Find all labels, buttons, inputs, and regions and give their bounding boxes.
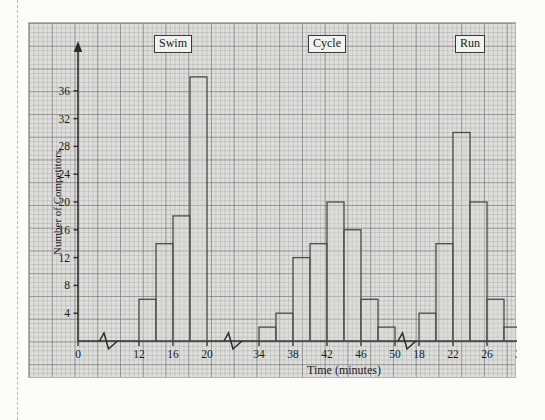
bar-swim-16-18 — [173, 216, 190, 341]
bar-cycle-38-40 — [293, 258, 310, 341]
y-tick-label-36: 36 — [59, 85, 71, 97]
x-tick-label-cycle-42: 42 — [321, 348, 333, 360]
x-tick-label-swim-12: 12 — [133, 348, 145, 360]
x-tick-label-cycle-50: 50 — [389, 348, 401, 360]
y-axis-title: Number of Competitors — [51, 149, 63, 254]
graph-paper: 4812162024283236012162034384246501822263… — [28, 22, 516, 378]
section-label-swim: Swim — [154, 35, 192, 53]
bar-swim-14-16 — [156, 244, 173, 341]
bar-cycle-34-36 — [259, 327, 276, 341]
bar-swim-12-14 — [139, 299, 156, 341]
bar-cycle-36-38 — [276, 313, 293, 341]
section-label-run: Run — [455, 35, 485, 53]
bar-run-24-26 — [470, 202, 487, 341]
bar-swim-18-20 — [190, 77, 207, 341]
bar-cycle-48-50 — [378, 327, 395, 341]
bar-run-28-30 — [504, 327, 517, 341]
bar-run-20-22 — [436, 244, 453, 341]
x-tick-label-swim-0: 0 — [75, 348, 81, 360]
bar-cycle-40-42 — [310, 244, 327, 341]
bar-run-22-24 — [453, 133, 470, 342]
x-tick-label-run-26: 26 — [481, 348, 493, 360]
x-tick-label-swim-16: 16 — [167, 348, 179, 360]
y-axis-arrow-icon — [74, 41, 82, 52]
y-tick-label-8: 8 — [64, 279, 70, 291]
x-tick-label-run-18: 18 — [413, 348, 425, 360]
section-label-cycle: Cycle — [308, 35, 346, 53]
x-tick-label-run-30: 30 — [515, 348, 517, 360]
x-tick-label-cycle-46: 46 — [355, 348, 367, 360]
bar-cycle-46-48 — [361, 299, 378, 341]
bar-run-26-28 — [487, 299, 504, 341]
bar-cycle-44-46 — [344, 230, 361, 341]
x-axis-title: Time (minutes) — [307, 363, 381, 378]
x-tick-label-cycle-38: 38 — [287, 348, 299, 360]
x-tick-label-cycle-34: 34 — [253, 348, 265, 360]
chart-svg: 4812162024283236012162034384246501822263… — [29, 23, 517, 379]
x-tick-label-run-22: 22 — [447, 348, 459, 360]
y-tick-label-32: 32 — [59, 113, 71, 125]
bar-cycle-42-44 — [327, 202, 344, 341]
histogram-plot: 4812162024283236012162034384246501822263… — [29, 23, 515, 377]
bar-run-18-20 — [419, 313, 436, 341]
page-edge-dashed-rule — [17, 0, 18, 420]
worksheet-page: 4812162024283236012162034384246501822263… — [0, 0, 545, 420]
y-tick-label-4: 4 — [64, 307, 70, 319]
x-tick-label-swim-20: 20 — [201, 348, 213, 360]
